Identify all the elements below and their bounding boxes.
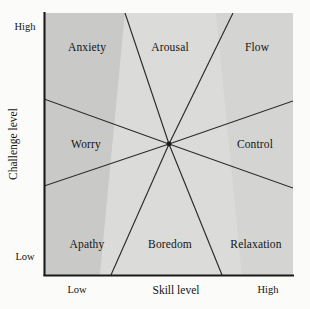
x-axis-tick-high: High [258, 285, 279, 296]
y-axis-title: Challenge level [8, 108, 20, 180]
sector-label-relaxation: Relaxation [230, 239, 281, 251]
x-axis-tick-low: Low [67, 285, 86, 296]
sector-label-control: Control [237, 139, 273, 151]
sector-label-worry: Worry [71, 139, 101, 151]
sector-label-apathy: Apathy [70, 239, 105, 251]
sector-label-anxiety: Anxiety [68, 42, 106, 54]
sector-label-flow: Flow [245, 42, 269, 54]
center-point [167, 142, 172, 147]
y-axis-tick-high: High [15, 22, 36, 33]
flow-model-figure: Anxiety Arousal Flow Worry Control Apath… [0, 0, 310, 309]
sector-label-arousal: Arousal [151, 42, 188, 54]
sector-label-boredom: Boredom [148, 239, 192, 251]
y-axis-tick-low: Low [15, 252, 34, 263]
x-axis-title: Skill level [153, 285, 200, 297]
